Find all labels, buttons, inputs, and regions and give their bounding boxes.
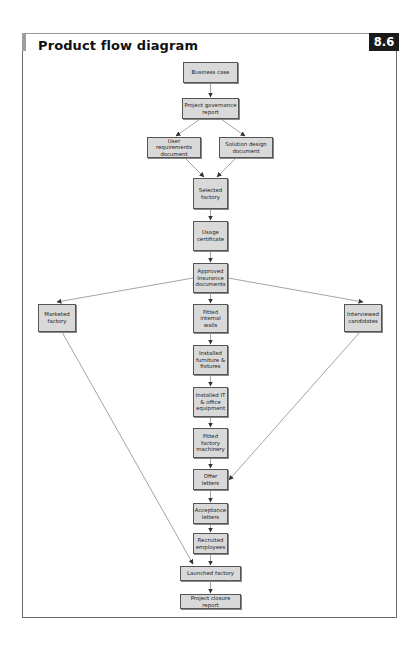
node-installed-it-office-equipment: Installed IT & office equipment <box>193 387 228 417</box>
node-launched-factory: Launched factory <box>180 566 241 581</box>
node-label: Interviewed candidates <box>346 311 380 324</box>
node-label: Installed IT & office equipment <box>195 392 226 412</box>
node-label: Usage certificate <box>195 229 226 242</box>
edge-approved-to-interviewed <box>228 278 363 302</box>
node-label: Business case <box>192 69 230 76</box>
node-project-governance-report: Project governance report <box>182 98 239 119</box>
edge-governance-to-solution <box>221 119 245 136</box>
node-solution-design-document: Solution design document <box>219 137 273 158</box>
edge-governance-to-user-req <box>176 119 200 136</box>
node-fitted-factory-machinery: Fitted factory machinery <box>193 428 228 458</box>
node-label: Recruited employees <box>195 537 226 550</box>
node-user-requirements-document: User requirements document <box>147 137 201 158</box>
node-approved-insurance-documents: Approved Insurance documents <box>193 263 228 293</box>
node-label: Project closure report <box>182 595 239 608</box>
node-installed-furniture-fixtures: Installed furniture & fixtures <box>193 345 228 375</box>
node-label: Installed furniture & fixtures <box>195 350 226 370</box>
node-label: Fitted internal walls <box>195 309 226 329</box>
node-acceptance-letters: Acceptance letters <box>193 503 228 524</box>
node-label: User requirements document <box>149 138 199 158</box>
node-label: Marketed factory <box>40 311 74 324</box>
edge-user-req-to-selected <box>185 158 204 177</box>
node-project-closure-report: Project closure report <box>180 594 241 609</box>
node-label: Project governance report <box>184 102 237 115</box>
node-offer-letters: Offer letters <box>193 469 228 490</box>
node-fitted-internal-walls: Fitted internal walls <box>193 304 228 333</box>
node-label: Fitted factory machinery <box>195 433 226 453</box>
edge-solution-to-selected <box>217 158 236 177</box>
node-business-case: Business case <box>183 62 238 83</box>
node-selected-factory: Selected factory <box>193 178 228 209</box>
node-usage-certificate: Usage certificate <box>193 221 228 251</box>
edge-marketed-to-launched <box>62 332 193 564</box>
node-label: Solution design document <box>221 141 271 154</box>
node-marketed-factory: Marketed factory <box>38 304 76 332</box>
node-interviewed-candidates: Interviewed candidates <box>344 304 382 332</box>
node-label: Acceptance letters <box>195 507 226 520</box>
edge-approved-to-marketed <box>57 278 193 302</box>
edge-interviewed-to-offer <box>229 332 360 480</box>
node-label: Launched factory <box>187 570 234 577</box>
node-label: Approved Insurance documents <box>195 268 226 288</box>
node-label: Selected factory <box>195 187 226 200</box>
node-label: Offer letters <box>195 473 226 486</box>
node-recruited-employees: Recruited employees <box>193 533 228 554</box>
